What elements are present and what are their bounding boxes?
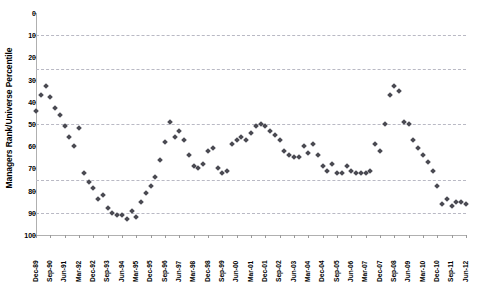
x-tick-mark	[237, 235, 238, 238]
y-tick-label: 10	[14, 32, 36, 39]
data-point	[148, 183, 154, 189]
data-point	[138, 199, 144, 205]
data-point	[162, 139, 168, 145]
data-point	[344, 163, 350, 169]
data-point	[387, 92, 393, 98]
data-point	[81, 170, 87, 176]
data-point	[71, 143, 77, 149]
y-axis-tick-labels: 0102030405060708090100	[14, 0, 36, 284]
x-tick-mark	[36, 235, 37, 238]
data-point	[272, 132, 278, 138]
x-tick-label: Sep-96	[161, 260, 168, 282]
data-point	[415, 146, 421, 152]
x-tick-mark	[437, 235, 438, 238]
x-tick-mark	[423, 235, 424, 238]
x-tick-mark	[79, 235, 80, 238]
x-tick-mark	[208, 235, 209, 238]
x-tick-mark	[380, 235, 381, 238]
data-point	[430, 168, 436, 174]
data-point	[420, 152, 426, 158]
data-point	[368, 168, 374, 174]
data-point	[143, 190, 149, 196]
gridline	[36, 124, 466, 125]
data-point	[181, 137, 187, 143]
x-tick-mark	[394, 235, 395, 238]
x-tick-mark	[351, 235, 352, 238]
x-tick-label: Sep-99	[218, 260, 225, 282]
data-point	[90, 186, 96, 192]
data-point	[76, 126, 82, 132]
x-tick-label: Jun-97	[175, 261, 182, 282]
data-point	[196, 166, 202, 172]
data-point	[100, 192, 106, 198]
data-point	[377, 148, 383, 154]
x-tick-label: Mar-95	[132, 261, 139, 282]
data-point	[105, 206, 111, 212]
data-point	[157, 157, 163, 163]
x-tick-mark	[179, 235, 180, 238]
data-point	[391, 83, 397, 89]
data-point	[38, 92, 44, 98]
data-point	[47, 95, 53, 101]
x-tick-label: Sep-08	[390, 260, 397, 282]
x-tick-label: Jun-12	[462, 261, 469, 282]
data-point	[396, 88, 402, 94]
x-tick-label: Jun-94	[118, 261, 125, 282]
x-tick-label: Dec-89	[32, 260, 39, 282]
data-point	[444, 197, 450, 203]
x-tick-mark	[409, 235, 410, 238]
x-tick-label: Jun-00	[232, 261, 239, 282]
data-point	[224, 168, 230, 174]
data-point	[282, 148, 288, 154]
x-tick-mark	[194, 235, 195, 238]
x-tick-label: Sep-90	[46, 260, 53, 282]
data-point	[215, 166, 221, 172]
data-point	[243, 137, 249, 143]
data-point	[57, 112, 63, 118]
y-tick-label: 30	[14, 76, 36, 83]
data-point	[305, 150, 311, 156]
data-point	[267, 128, 273, 134]
x-tick-mark	[452, 235, 453, 238]
x-tick-label: Sep-93	[103, 260, 110, 282]
x-tick-mark	[222, 235, 223, 238]
data-point	[329, 161, 335, 167]
x-tick-label: Jun-06	[347, 261, 354, 282]
x-tick-label: Jun-09	[404, 261, 411, 282]
x-tick-mark	[466, 235, 467, 238]
x-tick-label: Mar-10	[419, 261, 426, 282]
x-tick-label: Dec-10	[433, 260, 440, 282]
x-tick-label: Sep-11	[447, 261, 454, 282]
x-tick-mark	[65, 235, 66, 238]
data-point	[310, 141, 316, 147]
data-point	[406, 121, 412, 127]
x-tick-mark	[165, 235, 166, 238]
data-point	[95, 197, 101, 203]
x-tick-label: Dec-92	[89, 260, 96, 282]
data-point	[133, 214, 139, 220]
data-point	[439, 201, 445, 207]
x-tick-mark	[265, 235, 266, 238]
scatter-chart: Managers Rank/Universe Percentile 010203…	[0, 0, 477, 284]
x-tick-label: Dec-95	[146, 260, 153, 282]
data-point	[434, 183, 440, 189]
y-tick-label: 60	[14, 143, 36, 150]
y-tick-label: 100	[14, 232, 36, 239]
data-point	[325, 168, 331, 174]
x-tick-mark	[280, 235, 281, 238]
data-point	[176, 128, 182, 134]
data-point	[277, 137, 283, 143]
data-point	[248, 130, 254, 136]
y-tick-label: 0	[14, 10, 36, 17]
x-tick-label: Sep-02	[275, 260, 282, 282]
x-tick-mark	[151, 235, 152, 238]
data-point	[425, 159, 431, 165]
data-point	[229, 141, 235, 147]
data-point	[186, 152, 192, 158]
x-tick-mark	[136, 235, 137, 238]
x-tick-label: Jun-91	[60, 261, 67, 282]
y-tick-label: 70	[14, 165, 36, 172]
data-point	[301, 143, 307, 149]
x-tick-label: Jun-03	[290, 261, 297, 282]
x-tick-label: Dec-04	[318, 260, 325, 282]
